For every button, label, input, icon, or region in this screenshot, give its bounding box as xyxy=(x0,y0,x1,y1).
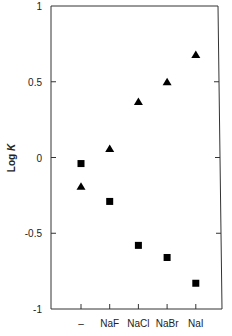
square-marker xyxy=(135,242,142,249)
y-tick-label: -0.5 xyxy=(25,228,43,239)
triangle-marker xyxy=(134,97,143,105)
square-marker xyxy=(192,280,199,287)
x-tick-label: – xyxy=(78,318,84,329)
scatter-chart: 10.50-0.5-1 –NaFNaClNaBrNaI Log K xyxy=(0,0,232,336)
triangle-marker xyxy=(105,144,114,152)
y-tick-label: 0 xyxy=(36,153,42,164)
y-tick-label: 0.5 xyxy=(28,77,42,88)
square-marker xyxy=(106,198,113,205)
x-tick-label: NaI xyxy=(188,318,204,329)
square-marker xyxy=(164,254,171,261)
y-tick-label: -1 xyxy=(33,304,42,315)
x-tick-label: NaF xyxy=(100,318,119,329)
x-axis: –NaFNaClNaBrNaI xyxy=(78,304,203,329)
data-points xyxy=(77,50,201,286)
triangle-marker xyxy=(163,78,172,86)
triangle-marker xyxy=(191,50,200,58)
x-tick-label: NaCl xyxy=(127,318,149,329)
square-marker xyxy=(78,160,85,167)
y-axis: 10.50-0.5-1 xyxy=(25,1,221,315)
y-axis-title: Log K xyxy=(6,143,17,172)
x-tick-label: NaBr xyxy=(156,318,179,329)
triangle-marker xyxy=(77,182,86,190)
y-tick-label: 1 xyxy=(36,1,42,12)
